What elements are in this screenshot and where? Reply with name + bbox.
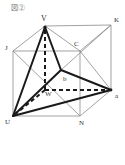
label-V: V	[41, 15, 47, 23]
label-W: W	[45, 91, 52, 98]
edge-V-K	[45, 25, 111, 26]
label-U: U	[5, 119, 10, 126]
bold-V-b	[45, 27, 61, 70]
label-b: b	[63, 76, 67, 83]
label-a: a	[115, 93, 118, 100]
label-J: J	[5, 45, 8, 52]
label-C: C	[74, 41, 79, 48]
diag-b-K	[61, 25, 111, 70]
label-N: N	[79, 120, 84, 127]
bold-V-U	[13, 27, 45, 116]
vertex-a-dot	[110, 89, 113, 92]
cube-diagram: 図②	[0, 0, 125, 165]
vertex-V-dot	[43, 25, 46, 28]
label-K: K	[114, 17, 119, 24]
